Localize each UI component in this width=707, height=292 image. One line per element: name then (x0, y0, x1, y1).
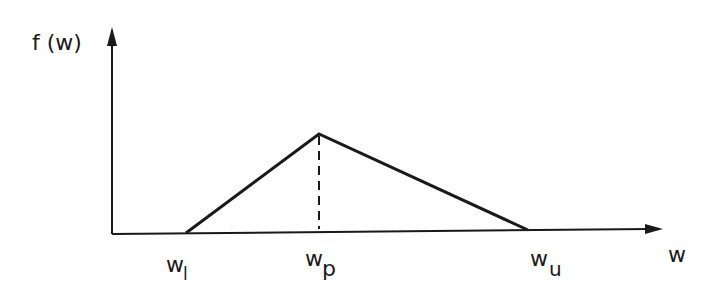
lower-bound-main: w (166, 252, 184, 277)
x-axis-arrow-icon (645, 224, 663, 234)
lower-bound-label: w l (166, 252, 188, 284)
y-axis-label: f (w) (32, 30, 82, 55)
peak-sub: p (322, 256, 336, 281)
upper-bound-label: w u (530, 246, 562, 281)
upper-bound-sub: u (549, 257, 562, 281)
lower-bound-sub: l (183, 264, 188, 284)
y-axis (107, 27, 117, 234)
density-curve (186, 134, 528, 233)
triangular-distribution-diagram: f (w) w w l w p w u (0, 0, 707, 292)
peak-label: w p (305, 246, 336, 281)
upper-bound-main: w (530, 246, 548, 271)
peak-main: w (305, 246, 323, 271)
x-axis-label: w (668, 242, 686, 267)
y-axis-arrow-icon (107, 27, 117, 46)
